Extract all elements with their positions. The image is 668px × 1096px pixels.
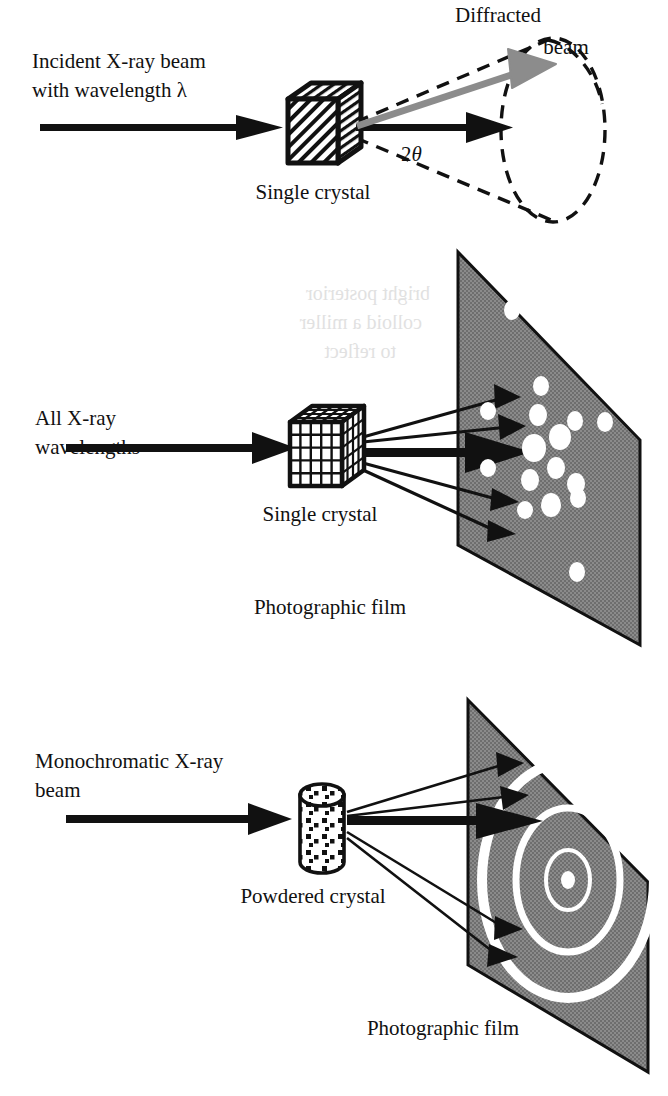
monochromatic-beam-label-line1: Monochromatic X-ray bbox=[35, 749, 224, 773]
powder-center-spot bbox=[561, 871, 575, 889]
ghost-line-1: bright posterior bbox=[306, 282, 430, 305]
diffraction-diagram-svg: Incident X-ray beam with wavelength λ Di… bbox=[0, 0, 668, 1096]
laue-spot bbox=[480, 459, 496, 477]
laue-spot bbox=[597, 412, 613, 432]
laue-spot bbox=[521, 469, 539, 491]
laue-spot bbox=[541, 493, 561, 517]
monochromatic-beam-label-line2: beam bbox=[35, 778, 80, 802]
laue-spot bbox=[567, 411, 583, 431]
laue-spot bbox=[504, 300, 520, 320]
laue-spot bbox=[547, 457, 565, 479]
single-crystal-label-panel2: Single crystal bbox=[263, 502, 378, 526]
laue-spot bbox=[549, 424, 571, 450]
laue-spot bbox=[517, 501, 533, 519]
all-wavelengths-label-line1: All X-ray bbox=[35, 406, 117, 430]
diffracted-beam-label-line2: beam bbox=[543, 35, 588, 59]
laue-spot bbox=[533, 376, 549, 396]
laue-spot bbox=[522, 434, 546, 462]
laue-spot bbox=[570, 488, 586, 508]
powdered-crystal-label: Powdered crystal bbox=[240, 884, 385, 908]
incident-beam-label-line1: Incident X-ray beam bbox=[32, 49, 206, 73]
laue-spot bbox=[529, 404, 547, 426]
two-theta-angle-label: 2θ bbox=[401, 142, 422, 166]
theta-symbol: θ bbox=[412, 142, 422, 166]
powdered-crystal-cylinder bbox=[300, 784, 344, 873]
laue-spot bbox=[569, 562, 585, 582]
single-crystal-cube-hatched bbox=[288, 83, 361, 163]
ghost-line-2: colloid a miller bbox=[299, 311, 422, 333]
xrd-figure: Incident X-ray beam with wavelength λ Di… bbox=[0, 0, 668, 1096]
single-crystal-lattice-cube bbox=[290, 406, 364, 486]
photographic-film-label-panel2: Photographic film bbox=[254, 595, 406, 619]
single-crystal-label-panel1: Single crystal bbox=[256, 180, 371, 204]
all-wavelengths-label-line2: wavelengths bbox=[35, 435, 140, 459]
two-theta-number: 2 bbox=[401, 142, 412, 166]
laue-spot bbox=[480, 402, 496, 420]
photographic-film-label-panel3: Photographic film bbox=[367, 1016, 519, 1040]
diffracted-beam-label-line1: Diffracted bbox=[455, 3, 541, 27]
ghost-line-3: to reflect bbox=[324, 340, 396, 362]
incident-beam-label-line2: with wavelength λ bbox=[32, 78, 188, 102]
